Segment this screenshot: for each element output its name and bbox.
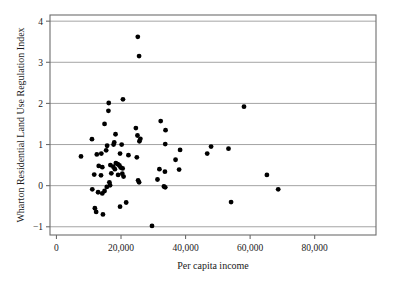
data-point [163, 185, 168, 190]
data-point [118, 151, 123, 156]
plot-frame [50, 15, 376, 235]
data-point [111, 142, 116, 147]
x-tick-label: 80,000 [302, 243, 328, 253]
data-point [118, 204, 123, 209]
data-point [109, 171, 114, 176]
y-tick-label: 4 [38, 17, 43, 27]
data-point [94, 210, 99, 215]
data-point [177, 167, 182, 172]
y-tick-label: 3 [38, 58, 43, 68]
data-point [137, 139, 142, 144]
data-point [126, 153, 131, 158]
data-point [134, 155, 139, 160]
data-point [101, 212, 106, 217]
x-tick-label: 60,000 [237, 243, 263, 253]
data-point [242, 104, 247, 109]
data-point [163, 128, 168, 133]
data-point [137, 180, 142, 185]
data-point [124, 200, 129, 205]
data-point [113, 132, 118, 137]
data-point [205, 151, 210, 156]
data-point [94, 152, 99, 157]
data-point [100, 191, 105, 196]
data-point [119, 142, 124, 147]
data-point [163, 142, 168, 147]
data-point [137, 54, 142, 59]
x-tick-label: 20,000 [108, 243, 134, 253]
data-point [155, 177, 160, 182]
data-point [173, 157, 178, 162]
data-point [99, 173, 104, 178]
scatter-chart-figure: −101234020,00040,00060,00080,000Per capi… [0, 0, 393, 283]
data-point [158, 119, 163, 124]
y-axis-title: Wharton Residential Land Use Regulation … [15, 27, 26, 222]
data-point [99, 151, 104, 156]
data-point [121, 97, 126, 102]
y-tick-label: 0 [38, 181, 43, 191]
data-point [120, 166, 125, 171]
data-point [121, 174, 126, 179]
data-point [226, 146, 231, 151]
data-point [265, 173, 270, 178]
data-point [90, 137, 95, 142]
data-point [116, 173, 121, 178]
data-point [90, 187, 95, 192]
data-point [178, 147, 183, 152]
data-point [100, 165, 105, 170]
x-axis-title: Per capita income [177, 260, 249, 271]
data-point [104, 148, 109, 153]
x-tick-label: 0 [54, 243, 59, 253]
data-point [104, 184, 109, 189]
data-point [209, 144, 214, 149]
data-point [79, 154, 84, 159]
data-point [106, 108, 111, 113]
data-point [112, 167, 117, 172]
chart-canvas: −101234020,00040,00060,00080,000Per capi… [0, 0, 393, 283]
data-point [157, 167, 162, 172]
data-point [229, 200, 234, 205]
y-tick-label: 2 [38, 99, 43, 109]
data-point [133, 126, 138, 131]
y-tick-label: 1 [38, 140, 43, 150]
data-point [92, 172, 97, 177]
data-point [163, 169, 168, 174]
data-point [106, 101, 111, 106]
data-point [105, 143, 110, 148]
data-point [135, 34, 140, 39]
data-point [102, 122, 107, 127]
data-point [276, 187, 281, 192]
x-tick-label: 40,000 [173, 243, 199, 253]
data-point [150, 224, 155, 229]
data-point [96, 190, 101, 195]
y-tick-label: −1 [33, 222, 43, 232]
